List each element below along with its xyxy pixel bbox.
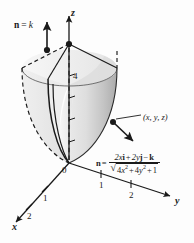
z-value-label-4: 4 <box>73 72 78 81</box>
surface-normal-vector <box>113 122 133 141</box>
top-normal-value: k <box>29 20 33 30</box>
x-axis-label: x <box>12 222 17 232</box>
radicand: 4x2+4y2+1 <box>116 163 158 175</box>
x-tick-label-1: 1 <box>43 194 48 203</box>
formula-numerator: 2xi+2yj−k <box>112 152 156 162</box>
top-normal-equals: = <box>21 20 26 30</box>
den-plus1: + <box>129 165 134 175</box>
top-normal-label: n=k <box>14 21 33 31</box>
num-term3-unit: k <box>149 152 154 162</box>
y-tick-label-2: 2 <box>129 191 134 200</box>
num-minus: − <box>144 152 149 162</box>
den-t2-pow: 2 <box>143 164 146 170</box>
surface-point-label: (x, y, z) <box>143 113 168 122</box>
unit-normal-formula: n = 2xi+2yj−k √4x2+4y2+1 <box>96 152 160 175</box>
x-tick-label-2: 2 <box>27 212 32 221</box>
origin-label: 0 <box>62 166 67 175</box>
den-plus2: + <box>147 165 152 175</box>
top-normal-n-symbol: n <box>14 20 19 30</box>
z-axis-label: z <box>71 8 75 18</box>
den-const: 1 <box>153 165 157 175</box>
formula-fraction: 2xi+2yj−k √4x2+4y2+1 <box>109 152 160 175</box>
formula-n-symbol: n <box>96 158 101 168</box>
y-tick-label-1: 1 <box>99 181 104 190</box>
formula-equals: = <box>102 158 107 168</box>
y-axis-label: y <box>175 196 179 206</box>
top-normal-base-point <box>44 47 50 53</box>
num-plus1: + <box>126 152 131 162</box>
formula-denominator: √4x2+4y2+1 <box>109 163 160 175</box>
den-t1-pow: 2 <box>125 164 128 170</box>
rim-corner-dashed-upper-right <box>105 44 117 51</box>
point-label-leader <box>116 115 141 119</box>
num-term1-unit: i <box>122 152 124 162</box>
z-axis-point-4 <box>66 41 72 47</box>
num-term2-unit: j <box>140 152 143 162</box>
